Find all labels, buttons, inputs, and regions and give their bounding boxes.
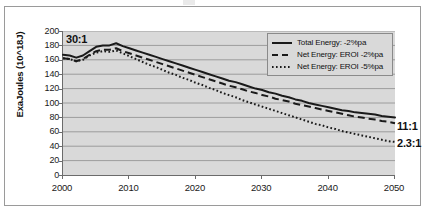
legend-item-net-energy-eroi-5: Net Energy: EROI -5%pa bbox=[271, 61, 388, 72]
x-tick-label: 2050 bbox=[384, 182, 404, 193]
y-tick-mark bbox=[59, 60, 62, 61]
y-tick-mark bbox=[59, 89, 62, 90]
x-tick-mark bbox=[261, 176, 262, 179]
legend-swatch-dashed-icon bbox=[271, 50, 293, 60]
y-tick-label: 120 bbox=[35, 84, 59, 93]
y-tick-label: 100 bbox=[35, 99, 59, 108]
legend-item-total-energy: Total Energy: -2%pa bbox=[271, 37, 388, 48]
y-tick-mark bbox=[59, 74, 62, 75]
legend-label-net-energy-eroi-2: Net Energy: EROI -2%pa bbox=[297, 50, 383, 59]
legend-swatch-solid-icon bbox=[271, 38, 293, 48]
x-tick-label: 2020 bbox=[185, 182, 205, 193]
y-axis-title: ExaJoules (10^18J) bbox=[14, 10, 25, 140]
chart-legend: Total Energy: -2%pa Net Energy: EROI -2%… bbox=[267, 33, 393, 76]
y-tick-label: 200 bbox=[35, 27, 59, 36]
chart-figure: ExaJoules (10^18J) 200180160140120100806… bbox=[0, 0, 425, 211]
legend-swatch-dotted-icon bbox=[271, 62, 293, 72]
x-tick-label: 2040 bbox=[317, 182, 337, 193]
y-tick-label: 180 bbox=[35, 41, 59, 50]
y-tick-label: 80 bbox=[35, 113, 59, 122]
y-tick-label: 60 bbox=[35, 127, 59, 136]
x-tick-label: 2010 bbox=[118, 182, 138, 193]
chart-frame: ExaJoules (10^18J) 200180160140120100806… bbox=[4, 6, 421, 206]
x-tick-mark bbox=[128, 176, 129, 179]
x-tick-mark bbox=[394, 176, 395, 179]
legend-label-total-energy: Total Energy: -2%pa bbox=[297, 38, 366, 47]
x-tick-mark bbox=[195, 176, 196, 179]
top-edge-artifact bbox=[183, 0, 195, 5]
x-tick-mark bbox=[62, 176, 63, 179]
y-tick-mark bbox=[59, 45, 62, 46]
y-tick-mark bbox=[59, 103, 62, 104]
y-tick-mark bbox=[59, 31, 62, 32]
y-tick-label: 140 bbox=[35, 70, 59, 79]
y-tick-mark bbox=[59, 146, 62, 147]
y-tick-mark bbox=[59, 132, 62, 133]
x-tick-mark bbox=[328, 176, 329, 179]
x-tick-label: 2000 bbox=[52, 182, 72, 193]
legend-label-net-energy-eroi-5: Net Energy: EROI -5%pa bbox=[297, 62, 383, 71]
y-tick-mark bbox=[59, 161, 62, 162]
y-tick-label: 20 bbox=[35, 156, 59, 165]
y-tick-label: 160 bbox=[35, 55, 59, 64]
y-tick-mark bbox=[59, 117, 62, 118]
annotation-end-ratio-net5: 2.3:1 bbox=[397, 137, 421, 149]
x-tick-label: 2030 bbox=[251, 182, 271, 193]
annotation-end-ratio-net2: 11:1 bbox=[397, 120, 418, 132]
y-tick-label: 0 bbox=[35, 171, 59, 180]
annotation-start-ratio: 30:1 bbox=[66, 33, 87, 45]
x-axis-tick-labels: 200020102020203020402050 bbox=[62, 178, 394, 194]
y-tick-label: 40 bbox=[35, 142, 59, 151]
y-axis-tick-labels: 200180160140120100806040200 bbox=[33, 31, 59, 175]
legend-item-net-energy-eroi-2: Net Energy: EROI -2%pa bbox=[271, 49, 388, 60]
